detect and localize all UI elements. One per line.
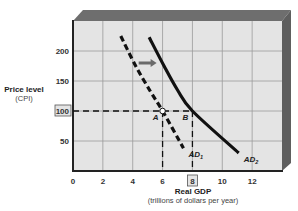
x-tick-label: 10 bbox=[218, 177, 227, 186]
point-label-b: B bbox=[183, 113, 189, 122]
y-tick-label: 100 bbox=[56, 107, 70, 116]
y-tick-label: 200 bbox=[56, 47, 70, 56]
y-tick-label: 50 bbox=[60, 137, 69, 146]
ad-shift-chart: AD1AD2 AB 024681012 50100150200 Price le… bbox=[0, 0, 298, 211]
x-tick-label: 8 bbox=[190, 177, 195, 186]
plot-area bbox=[73, 21, 282, 171]
x-tick-label: 4 bbox=[130, 177, 135, 186]
frame-right-bevel bbox=[282, 10, 291, 171]
y-axis-sublabel: (CPI) bbox=[15, 94, 33, 103]
point-label-a: A bbox=[152, 113, 159, 122]
y-axis-label: Price level bbox=[4, 85, 44, 94]
x-tick-labels: 024681012 bbox=[71, 175, 257, 186]
x-tick-label: 0 bbox=[71, 177, 76, 186]
x-axis-label: Real GDP bbox=[175, 187, 212, 196]
x-tick-label: 12 bbox=[248, 177, 257, 186]
x-axis-sublabel: (trillions of dollars per year) bbox=[148, 196, 239, 205]
x-tick-label: 6 bbox=[160, 177, 165, 186]
y-tick-label: 150 bbox=[56, 77, 70, 86]
point-marker-a bbox=[160, 108, 166, 114]
curve-label-subscript: 1 bbox=[200, 154, 203, 160]
x-tick-label: 2 bbox=[101, 177, 106, 186]
y-tick-labels: 50100150200 bbox=[55, 47, 71, 146]
curve-label-subscript: 2 bbox=[254, 159, 258, 165]
frame-top-bevel bbox=[73, 10, 291, 21]
